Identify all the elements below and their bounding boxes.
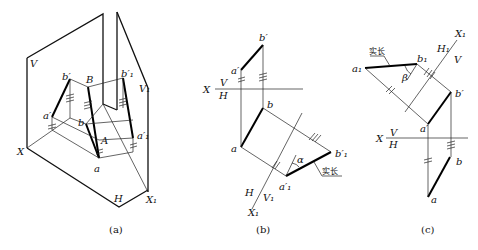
label-V-axis: V [390, 127, 399, 138]
projection-a-b-prime [241, 45, 263, 70]
projection-diagram: V V₁ b′ B b′₁ a′ b A a′₁ a X H X₁ (a) [0, 0, 478, 250]
label-a-prime: a′ [420, 123, 429, 134]
label-alpha: α [297, 154, 304, 165]
true-length-callout [370, 56, 390, 66]
caption-a: (a) [109, 224, 123, 235]
label-a-prime: a′ [231, 65, 240, 76]
label-X1: X₁ [247, 207, 259, 218]
label-b-prime: b′ [455, 88, 464, 99]
label-b1-prime: b′₁ [335, 148, 348, 159]
label-H-axis: H [388, 139, 398, 150]
panel-b: b′ a′ X V H b a b′₁ a′₁ α 实长 H V₁ X₁ (b) [202, 32, 348, 235]
label-V: V [30, 58, 39, 69]
tick-marks [238, 73, 321, 169]
fold-line [103, 104, 117, 110]
projector [263, 108, 331, 152]
projector [52, 117, 99, 140]
label-H1: H₁ [436, 43, 450, 54]
label-V1: V₁ [139, 83, 150, 94]
label-a: a [431, 194, 437, 205]
label-b1-prime: b′₁ [121, 68, 134, 79]
label-H: H [218, 90, 228, 101]
label-X: X [375, 133, 384, 144]
label-X1: X₁ [145, 194, 157, 205]
axis-x1-line [103, 104, 148, 192]
label-V1: V₁ [263, 192, 274, 203]
panel-a: V V₁ b′ B b′₁ a′ b A a′₁ a X H X₁ (a) [16, 12, 157, 235]
label-b: b [456, 156, 462, 167]
label-H: H [113, 193, 123, 204]
label-a: a [231, 143, 237, 154]
label-a-prime: a′ [43, 110, 52, 121]
label-a: a [94, 163, 100, 174]
projector [99, 152, 133, 158]
label-A: A [100, 135, 108, 146]
projection-a-b-prime [52, 79, 70, 117]
label-X1: X₁ [454, 28, 466, 39]
label-X: X [16, 146, 25, 157]
label-V: V [220, 77, 229, 88]
projector [86, 104, 103, 124]
label-B: B [85, 74, 93, 85]
label-b: b [267, 99, 273, 110]
segment-AB [88, 87, 99, 158]
label-H-axis: H [244, 187, 254, 198]
label-V: V [454, 54, 463, 65]
projection-a1-b1 [365, 64, 417, 68]
label-true-length: 实长 [322, 166, 338, 176]
label-a1-prime: a′₁ [279, 181, 291, 192]
projection-ab [241, 108, 263, 147]
label-b: b [78, 117, 84, 128]
projector [27, 118, 70, 148]
projector [365, 68, 428, 124]
label-b1: b₁ [417, 53, 427, 64]
label-true-length: 实长 [369, 46, 385, 56]
caption-b: (b) [256, 224, 270, 235]
projection-a1-b1-prime [123, 78, 133, 138]
projection-ab [428, 157, 450, 197]
label-X: X [202, 84, 211, 95]
panel-c: 实长 X₁ H₁ V a₁ b₁ β b′ a′ X V H b a (c) [352, 28, 468, 235]
label-b-prime: b′ [259, 32, 268, 43]
caption-c: (c) [421, 224, 435, 235]
projector [241, 147, 286, 176]
label-a1-prime: a′₁ [137, 130, 149, 141]
label-b-prime: b′ [62, 71, 71, 82]
projection-a-b-prime [428, 92, 451, 124]
label-beta: β [401, 72, 408, 83]
projector [52, 130, 99, 158]
label-a1: a₁ [352, 63, 362, 74]
